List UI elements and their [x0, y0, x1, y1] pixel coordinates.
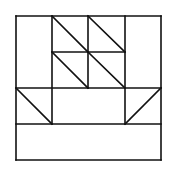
diagram-line — [16, 88, 52, 124]
diagram-line — [52, 16, 88, 52]
diagram-line — [125, 88, 161, 124]
diagram-line — [88, 52, 125, 88]
diagram-line — [52, 52, 88, 88]
quilt-diagram — [0, 0, 169, 172]
diagram-line — [88, 16, 125, 52]
